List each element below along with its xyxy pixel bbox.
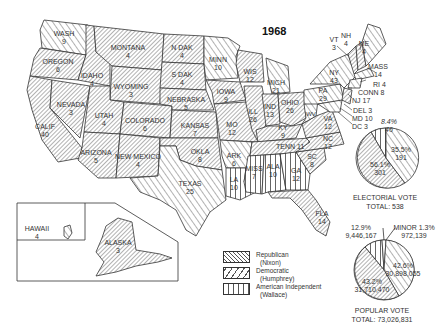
callout-nh: NH4 — [341, 32, 351, 48]
label-wyoming: WYOMING3 — [114, 83, 149, 99]
label-iowa: IOWA9 — [217, 88, 235, 104]
label-n-dak: N DAK4 — [171, 44, 192, 60]
electoral-dem-label: 35.5%191 — [391, 146, 411, 162]
label-wv: WV — [306, 110, 316, 118]
label-nebraska: NEBRASKA5 — [167, 96, 205, 112]
label-colorado: COLORADO6 — [125, 117, 165, 133]
label-miss: MISS7 — [245, 165, 262, 181]
callout-me: ME4 — [359, 40, 370, 56]
map-title: 1968 — [262, 25, 286, 37]
popular-minor-label: MINOR 1.3%972,139 — [393, 224, 434, 240]
legend-item-democratic: Democratic(Humphrey) — [223, 267, 321, 283]
label-ind: IND13 — [264, 103, 276, 119]
callout-mass: MASS14 — [368, 63, 388, 79]
label-alaska: ALASKA3 — [104, 239, 131, 255]
popular-dem-label: 42.6%30,898,055 — [385, 262, 420, 278]
electoral-rep-label: 56.1%301 — [370, 161, 390, 177]
inset-frame — [17, 203, 178, 281]
state-nj — [342, 88, 352, 104]
label-arizona: ARIZONA5 — [80, 149, 111, 165]
label-nevada: NEVADA3 — [57, 101, 85, 117]
label-utah: UTAH4 — [95, 112, 114, 128]
label-montana: MONTANA4 — [111, 44, 145, 60]
callout-ri: RI 4 — [373, 81, 386, 89]
label-ga: GA12 — [291, 167, 301, 183]
label-wash: WASH9 — [54, 30, 75, 46]
label-minn: MINN10 — [209, 56, 227, 72]
label-ny: NY43 — [329, 69, 339, 85]
callout-nj: NJ 17 — [352, 97, 370, 105]
label-la: LA10 — [230, 176, 239, 192]
label-tenn: TENN 11 — [276, 143, 304, 151]
callout-vt: VT3 — [330, 36, 339, 52]
label-hawaii: HAWAII4 — [25, 225, 49, 241]
electoral-aip-label: 8.4%46 — [381, 118, 397, 134]
callout-del: DEL 3 — [353, 107, 372, 115]
label-wis: WIS12 — [243, 68, 256, 84]
label-mich: MICH21 — [267, 79, 285, 95]
label-ala: ALA10 — [266, 163, 279, 179]
callout-dc: DC 3 — [352, 123, 368, 131]
label-va: VA12 — [324, 115, 333, 131]
label-kansas: KANSAS7 — [181, 122, 209, 138]
label-fla: FLA14 — [316, 210, 329, 226]
label-pa: PA29 — [319, 87, 328, 103]
legend-item-republican: Republican(Nixon) — [223, 251, 321, 267]
election-map-1968: 1968 WASH9 OREGON6 CALIF40 NEVADA3 IDAHO… — [0, 0, 446, 336]
republican-swatch — [223, 251, 250, 263]
popular-rep-label: 43.2%31,710,470 — [354, 278, 389, 294]
popular-aip-label: 12.9%9,446,167 — [345, 224, 376, 240]
label-ohio: OHIO26 — [281, 99, 299, 115]
label-okla: OKLA8 — [191, 148, 210, 164]
label-ill: ILL26 — [248, 108, 258, 124]
callout-conn: CONN 8 — [358, 89, 384, 97]
label-nc: NC12 — [323, 135, 333, 151]
legend-item-american-independent: American Independent(Wallace) — [223, 283, 321, 299]
label-s-dak: S DAK4 — [171, 71, 192, 87]
legend: Republican(Nixon) Democratic(Humphrey) A… — [223, 251, 321, 299]
callout-md: MD 10 — [352, 115, 373, 123]
democratic-swatch — [223, 267, 250, 279]
label-mo: MO12 — [226, 121, 237, 137]
label-oregon: OREGON6 — [42, 58, 73, 74]
label-ark: ARK6 — [227, 152, 241, 168]
label-new-mexico: NEW MEXICO4 — [115, 153, 161, 169]
label-calif: CALIF40 — [35, 123, 55, 139]
label-texas: TEXAS25 — [179, 180, 202, 196]
label-ky: KY9 — [278, 124, 287, 140]
label-idaho: IDAHO4 — [81, 72, 103, 88]
popular-caption: POPULAR VOTETOTAL: 73,026,831 — [352, 306, 413, 324]
electoral-caption: ELECTORIAL VOTETOTAL: 538 — [353, 193, 417, 211]
label-sc: SC8 — [307, 153, 317, 169]
american-independent-swatch — [223, 283, 250, 295]
